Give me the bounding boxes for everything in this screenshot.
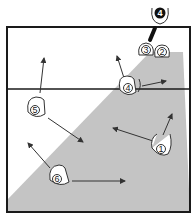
arrow-icon	[117, 56, 124, 78]
court-svg: 4 3 2 4 5	[0, 0, 196, 220]
arrow-icon	[28, 143, 50, 168]
player-number: 3	[143, 45, 148, 55]
player-number: 1	[158, 144, 163, 154]
arrow-icon	[40, 58, 44, 93]
player-number: 2	[159, 47, 164, 57]
volleyball-rotation-diagram: 4 3 2 4 5	[0, 0, 196, 220]
player-number: 6	[54, 174, 59, 184]
shaded-coverage-zone	[7, 52, 190, 212]
player-number: 4	[157, 8, 162, 18]
player-4-server: 4	[150, 8, 168, 41]
player-number: 4	[125, 83, 130, 93]
player-3: 3	[139, 43, 154, 55]
player-5: 5	[28, 97, 45, 117]
player-number: 5	[32, 105, 37, 115]
player-2: 2	[155, 45, 170, 57]
